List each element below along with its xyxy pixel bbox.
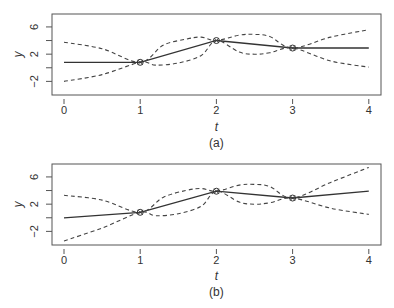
plot-frame (52, 164, 381, 245)
x-tick-label: 2 (213, 254, 219, 266)
x-tick-label: 0 (61, 254, 67, 266)
x-tick-label: 0 (61, 104, 67, 116)
x-tick-label: 2 (213, 104, 219, 116)
bound-line (64, 191, 369, 241)
bound-line (64, 40, 369, 81)
panel-a-ylabel: y (11, 51, 25, 59)
estimate-line (64, 191, 369, 218)
y-tick-label: 6 (28, 24, 40, 30)
x-tick-label: 1 (137, 104, 143, 116)
y-tick-label: −2 (28, 75, 40, 88)
figure: 01234−226(a)ty 01234−226(b)ty (0, 0, 394, 308)
plot-frame (52, 14, 381, 95)
x-tick-label: 1 (137, 254, 143, 266)
panel-b-ylabel: y (11, 201, 25, 209)
x-tick-label: 3 (290, 254, 296, 266)
y-tick-label: 2 (28, 201, 40, 207)
panel-a-xlabel: t (215, 120, 219, 134)
y-tick-label: −2 (28, 225, 40, 238)
panel-b-caption: (b) (209, 285, 224, 299)
x-tick-label: 3 (290, 104, 296, 116)
panel-a: 01234−226(a)ty (11, 14, 381, 150)
bound-line (64, 167, 369, 212)
panel-b-xlabel: t (215, 269, 219, 283)
panel-a-caption: (a) (209, 136, 224, 150)
x-tick-label: 4 (366, 104, 372, 116)
x-tick-label: 4 (366, 254, 372, 266)
y-tick-label: 6 (28, 174, 40, 180)
bound-line (64, 30, 369, 63)
panel-b: 01234−226(b)ty (11, 164, 381, 299)
y-tick-label: 2 (28, 51, 40, 57)
